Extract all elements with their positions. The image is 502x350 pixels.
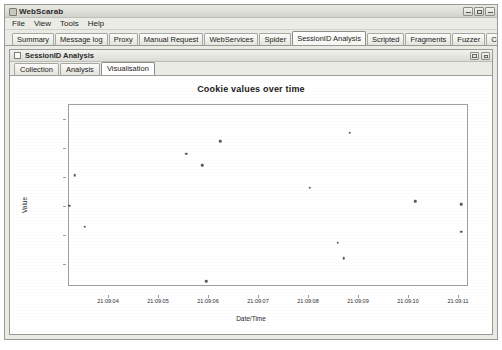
- x-axis-tick-label: 21:09:07: [247, 298, 268, 304]
- x-axis-tick-label: 21:09:10: [397, 298, 418, 304]
- tab-message-log[interactable]: Message log: [55, 33, 108, 46]
- x-axis-tick-label: 21:09:11: [447, 298, 468, 304]
- y-axis-tick-mark: [63, 148, 66, 149]
- data-point: [68, 205, 71, 208]
- data-point: [336, 241, 339, 244]
- tab-manual-request[interactable]: Manual Request: [139, 33, 204, 46]
- subtab-analysis[interactable]: Analysis: [60, 63, 100, 75]
- minimize-button[interactable]: [463, 7, 473, 16]
- x-axis-tick-label: 21:09:06: [197, 298, 218, 304]
- internal-frame-controls: [470, 52, 490, 60]
- subtab-visualisation[interactable]: Visualisation: [101, 62, 155, 75]
- y-axis-tick-mark: [63, 264, 66, 265]
- chart-x-axis-label: Date/Time: [10, 315, 492, 322]
- tab-sessionid-analysis[interactable]: SessionID Analysis: [292, 31, 366, 45]
- x-axis-tick-mark: [208, 295, 209, 298]
- menu-bar: File View Tools Help: [5, 18, 497, 30]
- data-point: [219, 140, 222, 143]
- data-point: [460, 231, 463, 234]
- x-axis-tick-label: 21:09:05: [147, 298, 168, 304]
- chart-y-axis-label: Value: [21, 197, 28, 213]
- subtab-collection[interactable]: Collection: [14, 63, 59, 75]
- x-axis-tick-mark: [408, 295, 409, 298]
- maximize-button[interactable]: [474, 7, 484, 16]
- data-point: [205, 280, 208, 283]
- y-axis-tick-mark: [63, 119, 66, 120]
- x-axis-tick-mark: [258, 295, 259, 298]
- menu-item-file[interactable]: File: [8, 18, 30, 29]
- iframe-restore-button[interactable]: [481, 52, 490, 60]
- data-point: [414, 200, 417, 203]
- menu-item-view[interactable]: View: [30, 18, 56, 29]
- close-button[interactable]: [485, 7, 495, 16]
- iframe-maximize-button[interactable]: [470, 52, 479, 60]
- data-point: [74, 174, 77, 177]
- chart-plot-area: [68, 104, 468, 286]
- frame-icon: [14, 52, 21, 59]
- tab-webservices[interactable]: WebServices: [204, 33, 258, 46]
- data-point: [185, 152, 188, 155]
- tab-fuzzer[interactable]: Fuzzer: [452, 33, 485, 46]
- x-axis-tick-mark: [458, 295, 459, 298]
- internal-frame-title-bar: SessionID Analysis: [10, 50, 492, 62]
- x-axis-tick-mark: [308, 295, 309, 298]
- tab-fragments[interactable]: Fragments: [405, 33, 451, 46]
- menu-item-tools[interactable]: Tools: [56, 18, 84, 29]
- x-axis-tick-label: 21:09:08: [297, 298, 318, 304]
- data-point: [460, 203, 463, 206]
- x-axis-tick-label: 21:09:04: [97, 298, 118, 304]
- chart-x-tick-labels: 21:09:0421:09:0521:09:0621:09:0721:09:08…: [68, 298, 468, 308]
- data-point: [342, 257, 345, 260]
- content-area: SessionID Analysis Collection Analysis V…: [5, 46, 497, 339]
- data-point: [201, 164, 204, 167]
- app-icon: [8, 7, 16, 15]
- x-axis-tick-mark: [158, 295, 159, 298]
- y-axis-tick-mark: [63, 177, 66, 178]
- tab-spider[interactable]: Spider: [259, 33, 291, 46]
- x-axis-tick-mark: [108, 295, 109, 298]
- cookie-values-chart: Cookie values over time Value 21:09:0421…: [10, 76, 492, 334]
- sub-tab-strip: Collection Analysis Visualisation: [10, 62, 492, 76]
- main-tab-strip: Summary Message log Proxy Manual Request…: [5, 30, 497, 46]
- application-window: WebScarab File View Tools Help Summary M…: [4, 4, 498, 340]
- tab-summary[interactable]: Summary: [12, 33, 54, 46]
- tab-proxy[interactable]: Proxy: [109, 33, 138, 46]
- chart-y-tickmarks: [56, 104, 66, 286]
- data-point: [84, 225, 87, 228]
- window-title: WebScarab: [19, 7, 63, 16]
- data-point: [348, 132, 351, 135]
- title-bar: WebScarab: [5, 5, 497, 18]
- menu-item-help[interactable]: Help: [84, 18, 109, 29]
- internal-frame-title: SessionID Analysis: [25, 51, 94, 60]
- chart-title: Cookie values over time: [10, 84, 492, 94]
- y-axis-tick-mark: [63, 235, 66, 236]
- y-axis-tick-mark: [63, 206, 66, 207]
- sessionid-analysis-frame: SessionID Analysis Collection Analysis V…: [9, 49, 493, 335]
- tab-compare[interactable]: Compare: [486, 33, 497, 46]
- x-axis-tick-label: 21:09:09: [347, 298, 368, 304]
- x-axis-tick-mark: [358, 295, 359, 298]
- window-controls: [463, 7, 495, 16]
- tab-scripted[interactable]: Scripted: [367, 33, 405, 46]
- data-point: [309, 187, 312, 190]
